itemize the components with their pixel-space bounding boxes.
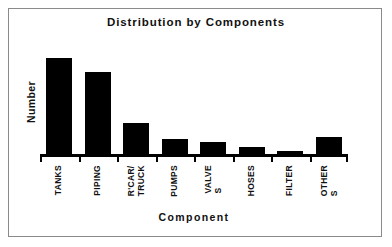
x-tick-label-rcar-truck: R'CAR/ TRUCK — [127, 165, 146, 196]
bar-rcar-truck[interactable] — [123, 123, 149, 154]
x-axis-tick — [156, 154, 158, 162]
x-tick-label-filter: FILTER — [286, 165, 296, 196]
bar-slot-tanks — [40, 40, 79, 154]
x-label-slot-others: OTHER S — [310, 165, 349, 211]
bar-series — [40, 40, 348, 154]
chart-title: Distribution by Components — [0, 16, 392, 28]
x-label-slot-rcar-truck: R'CAR/ TRUCK — [117, 165, 156, 211]
bar-slot-hoses — [233, 40, 272, 154]
x-axis-tick — [346, 154, 348, 162]
x-label-slot-valves: VALVE S — [194, 165, 233, 211]
x-tick-label-tanks: TANKS — [55, 165, 65, 195]
x-tick-label-pumps: PUMPS — [170, 165, 180, 197]
bar-others[interactable] — [316, 137, 342, 154]
x-label-slot-pumps: PUMPS — [156, 165, 195, 211]
plot-area — [40, 40, 348, 154]
x-axis-tick — [233, 154, 235, 162]
x-label-slot-piping: PIPING — [79, 165, 118, 211]
x-axis-title: Component — [40, 211, 348, 223]
x-axis-tick — [117, 154, 119, 162]
bar-tanks[interactable] — [46, 58, 72, 154]
bar-valves[interactable] — [200, 142, 226, 154]
bar-slot-pumps — [156, 40, 195, 154]
bar-hoses[interactable] — [239, 147, 265, 154]
x-axis-tick-labels: TANKS PIPING R'CAR/ TRUCK PUMPS VALVE S … — [40, 165, 348, 211]
bar-piping[interactable] — [85, 72, 111, 154]
x-label-slot-filter: FILTER — [271, 165, 310, 211]
bar-slot-rcar-truck — [117, 40, 156, 154]
bar-slot-filter — [271, 40, 310, 154]
x-axis-tick — [79, 154, 81, 162]
x-tick-label-valves: VALVE S — [204, 165, 223, 194]
bar-slot-valves — [194, 40, 233, 154]
y-axis-title: Number — [25, 67, 37, 137]
x-tick-label-piping: PIPING — [93, 165, 103, 196]
x-label-slot-tanks: TANKS — [40, 165, 79, 211]
x-tick-label-hoses: HOSES — [247, 165, 257, 196]
x-axis-tick — [271, 154, 273, 162]
x-tick-label-others: OTHER S — [319, 165, 338, 196]
x-axis-tick — [40, 154, 42, 162]
x-axis-tick — [310, 154, 312, 162]
bar-pumps[interactable] — [162, 139, 188, 154]
x-axis-tick — [194, 154, 196, 162]
x-label-slot-hoses: HOSES — [233, 165, 272, 211]
bar-slot-piping — [79, 40, 118, 154]
bar-slot-others — [310, 40, 349, 154]
